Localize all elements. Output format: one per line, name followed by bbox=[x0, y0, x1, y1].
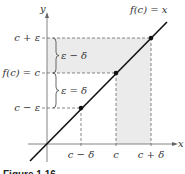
point-c-plus bbox=[149, 36, 154, 41]
brace-lower-icon bbox=[53, 73, 59, 108]
x-tick-c: c bbox=[113, 149, 119, 160]
x-tick-c-minus-delta: c − δ bbox=[68, 149, 94, 160]
y-tick-c-plus-eps: c + ε bbox=[14, 32, 40, 43]
y-tick-c-minus-eps: c − ε bbox=[14, 102, 40, 113]
x-axis-label: x bbox=[178, 138, 184, 149]
y-axis-label: y bbox=[39, 3, 46, 14]
point-c-minus bbox=[79, 106, 84, 111]
brace-lower-label: ε = δ bbox=[61, 85, 87, 96]
function-label: f(c) = x bbox=[129, 4, 168, 15]
y-tick-fc: f(c) = c bbox=[2, 67, 41, 78]
brace-upper-label: ε − δ bbox=[61, 50, 87, 61]
shaded-vertical-band bbox=[116, 38, 151, 144]
x-tick-c-plus-delta: c + δ bbox=[138, 149, 164, 160]
epsilon-delta-diagram: f(c) = x y x c + ε f(c) = c c − ε c − δ … bbox=[0, 0, 185, 174]
point-c bbox=[114, 71, 119, 76]
figure-caption: Figure 1.16 bbox=[3, 169, 56, 174]
